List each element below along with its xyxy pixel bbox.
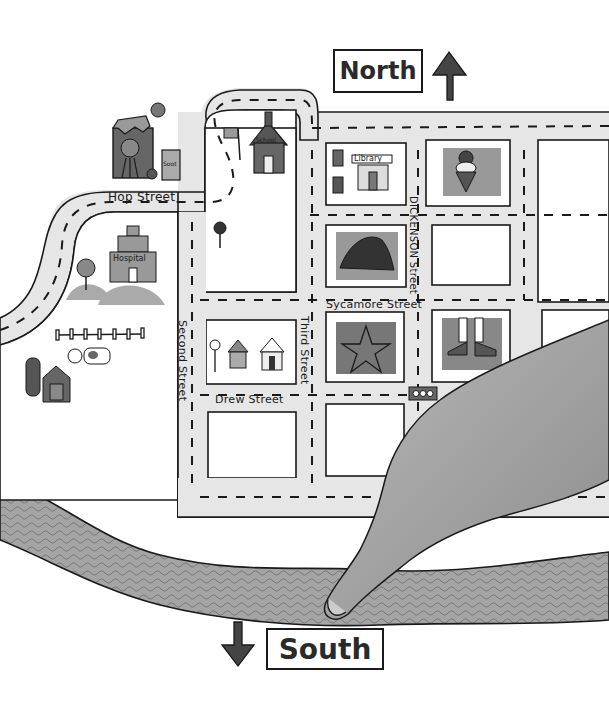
ice-cream-icon	[443, 148, 501, 196]
north-arrow-icon	[433, 52, 466, 100]
cow-icon	[68, 348, 110, 364]
north-label-box: North	[333, 49, 423, 93]
factory-bin-label: Soot	[163, 160, 177, 167]
boots-icon	[442, 318, 502, 370]
star-icon	[336, 322, 396, 374]
north-label: North	[340, 57, 417, 85]
second-street-label: Second Street	[176, 320, 189, 401]
factory-icon	[113, 103, 180, 180]
dickenson-street-label: DICKENSON Street	[408, 196, 419, 294]
third-street-label: Third Street	[298, 316, 311, 385]
south-label-box: South	[266, 628, 384, 670]
school-label: School	[256, 136, 276, 143]
south-label: South	[279, 633, 372, 666]
traffic-light-icon	[409, 387, 437, 400]
library-label: Library	[354, 154, 382, 163]
drew-street-label: Drew Street	[215, 393, 284, 406]
hop-street-label: Hop Street	[108, 190, 175, 204]
hat-icon	[336, 232, 398, 280]
sycamore-street-label: Sycamore Street	[326, 298, 422, 311]
hospital-label: Hospital	[113, 254, 146, 263]
south-arrow-icon	[222, 622, 254, 666]
